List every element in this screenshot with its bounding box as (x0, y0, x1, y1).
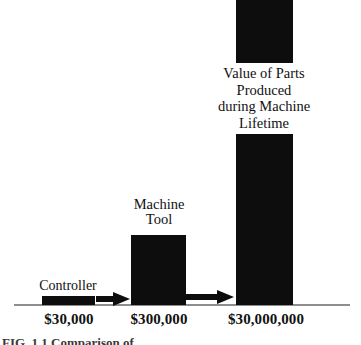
arrow-shaft (96, 296, 114, 302)
controller-to-machine-tool-arrow-icon (96, 292, 130, 306)
arrow-head (113, 292, 130, 306)
bar-machine-tool (131, 235, 186, 305)
value-label-machine-tool: $300,000 (109, 311, 209, 328)
value-label-value-of-parts: $30,000,000 (205, 311, 327, 328)
value-label-controller: $30,000 (19, 311, 119, 328)
bar-value-of-parts-upper-segment (236, 0, 293, 64)
arrow-shaft (186, 294, 218, 300)
bar-label-value-of-parts: Value of Parts Produced during Machine L… (203, 63, 325, 134)
machine-tool-to-value-arrow-icon (186, 290, 236, 304)
bar-label-machine-tool: Machine Tool (112, 197, 206, 227)
arrow-head (217, 290, 234, 304)
figure-caption: FIG. 1.1 Comparison of (2, 336, 361, 345)
bar-controller (42, 296, 95, 305)
bar-chart-figure: Controller Machine Tool Value of Parts P… (0, 0, 361, 345)
bar-value-of-parts-lower-segment (236, 128, 293, 305)
